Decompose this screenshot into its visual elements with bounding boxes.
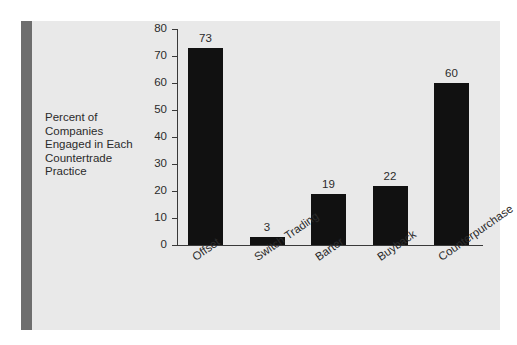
y-axis-tick-label-text: 60 [139, 77, 167, 88]
y-axis-tick-label-text: 10 [139, 212, 167, 223]
y-axis-tick [172, 218, 178, 219]
y-axis-tick [172, 110, 178, 111]
y-axis-tick [172, 83, 178, 84]
bar-value-label: 73 [176, 32, 235, 44]
bar-value-label: 60 [422, 67, 481, 79]
y-axis-tick-label-text: 20 [139, 185, 167, 196]
plot-area: Percent of Companies Engaged in Each Cou… [21, 21, 500, 330]
y-axis-tick-label-text: 50 [139, 104, 167, 115]
y-axis-tick [172, 164, 178, 165]
bar-value-label: 19 [299, 178, 358, 190]
y-axis-tick [172, 29, 178, 30]
bar [434, 83, 469, 245]
y-axis-tick [172, 137, 178, 138]
y-axis-tick-label: 10 [137, 212, 167, 223]
y-axis-tick [172, 245, 178, 246]
bar-value-label: 22 [361, 170, 420, 182]
y-axis-tick-label: 80 [137, 23, 167, 34]
bar [188, 48, 223, 245]
y-axis-tick-label-text: 30 [139, 158, 167, 169]
y-axis-tick-label: 60 [137, 77, 167, 88]
chart-panel: Percent of Companies Engaged in Each Cou… [21, 21, 500, 330]
y-axis-tick-label-text: 70 [139, 50, 167, 61]
y-axis-tick [172, 56, 178, 57]
y-axis-tick-label-text: 80 [139, 23, 167, 34]
y-axis-line [177, 29, 178, 246]
figure-root: Percent of Companies Engaged in Each Cou… [0, 0, 517, 345]
y-axis-tick-label: 30 [137, 158, 167, 169]
y-axis-tick [172, 191, 178, 192]
y-axis-tick-label-text: 0 [139, 239, 167, 250]
y-axis-tick-label: 20 [137, 185, 167, 196]
y-axis-tick-label: 40 [137, 131, 167, 142]
y-axis-tick-label-text: 40 [139, 131, 167, 142]
y-axis-tick-label: 70 [137, 50, 167, 61]
y-axis-tick-label: 50 [137, 104, 167, 115]
y-axis-tick-label: 0 [137, 239, 167, 250]
